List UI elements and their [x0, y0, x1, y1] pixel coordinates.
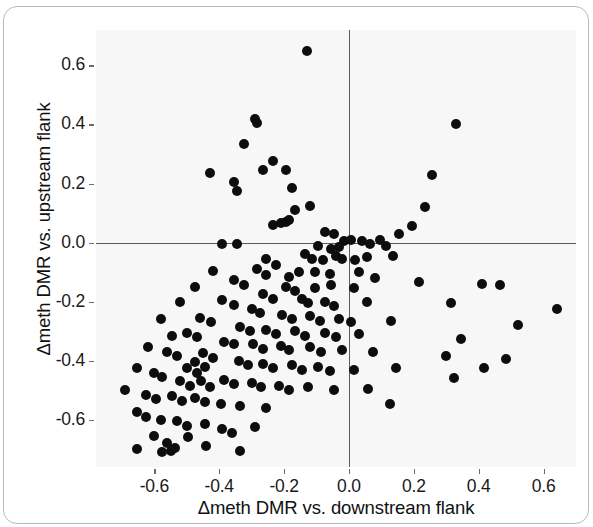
scatter-point [420, 202, 430, 212]
scatter-point [325, 366, 335, 376]
scatter-point [245, 326, 255, 336]
scatter-point [258, 359, 268, 369]
scatter-point [318, 255, 328, 265]
scatter-point [175, 297, 185, 307]
scatter-point [300, 331, 310, 341]
scatter-point [339, 236, 349, 246]
x-axis-tick-label: 0.6 [514, 476, 574, 497]
scatter-point [334, 314, 344, 324]
scatter-point [456, 334, 466, 344]
y-axis-tick [89, 124, 94, 125]
scatter-point [513, 320, 523, 330]
scatter-point [337, 254, 347, 264]
scatter-point [232, 239, 242, 249]
scatter-point [315, 316, 325, 326]
y-axis-tick [89, 184, 94, 185]
scatter-point [239, 280, 249, 290]
scatter-point [196, 376, 206, 386]
scatter-point [449, 373, 459, 383]
scatter-point [250, 422, 260, 432]
scatter-point [407, 221, 417, 231]
scatter-point [325, 269, 335, 279]
scatter-point [200, 419, 210, 429]
scatter-point [261, 270, 271, 280]
scatter-point [305, 201, 315, 211]
scatter-point [206, 317, 216, 327]
scatter-point [552, 304, 562, 314]
scatter-point [239, 139, 249, 149]
scatter-point [479, 363, 489, 373]
scatter-point [195, 313, 205, 323]
scatter-point [247, 378, 257, 388]
horizontal-zero-reference-line [96, 243, 576, 244]
x-axis-tick [219, 469, 220, 474]
scatter-point [141, 412, 151, 422]
scatter-point [310, 267, 320, 277]
scatter-point [320, 297, 330, 307]
scatter-point [141, 390, 151, 400]
scatter-point [276, 218, 286, 228]
scatter-point [190, 282, 200, 292]
scatter-point [305, 342, 315, 352]
scatter-point [290, 205, 300, 215]
plot-panel [96, 30, 576, 467]
scatter-point [357, 236, 367, 246]
scatter-point [192, 368, 202, 378]
scatter-point [229, 339, 239, 349]
scatter-point [365, 239, 375, 249]
scatter-point [201, 441, 211, 451]
x-axis-tick [154, 469, 155, 474]
scatter-point [132, 407, 142, 417]
scatter-plot-figure: -0.6-0.4-0.20.00.20.40.6 -0.6-0.4-0.20.0… [0, 0, 593, 527]
scatter-point [208, 353, 218, 363]
scatter-point [261, 325, 271, 335]
scatter-point [149, 368, 159, 378]
scatter-point [243, 360, 253, 370]
scatter-point [177, 396, 187, 406]
scatter-point [305, 311, 315, 321]
scatter-point [320, 328, 330, 338]
scatter-point [284, 215, 294, 225]
scatter-points-layer [96, 30, 576, 467]
scatter-point [149, 431, 159, 441]
y-axis-tick [89, 302, 94, 303]
scatter-point [307, 254, 317, 264]
scatter-point [172, 416, 182, 426]
scatter-point [229, 300, 239, 310]
scatter-point [219, 337, 229, 347]
scatter-point [303, 382, 313, 392]
scatter-point [151, 394, 161, 404]
scatter-point [252, 264, 262, 274]
scatter-point [354, 267, 364, 277]
x-axis-tick-label: -0.4 [189, 476, 249, 497]
scatter-point [247, 304, 257, 314]
scatter-point [256, 382, 266, 392]
scatter-point [250, 114, 260, 124]
scatter-point [290, 326, 300, 336]
scatter-point [294, 267, 304, 277]
scatter-point [271, 260, 281, 270]
scatter-point [261, 254, 271, 264]
scatter-point [200, 397, 210, 407]
scatter-point [200, 362, 210, 372]
scatter-point [166, 446, 176, 456]
y-axis-tick [89, 243, 94, 244]
scatter-point [386, 316, 396, 326]
scatter-point [198, 348, 208, 358]
scatter-point [337, 345, 347, 355]
scatter-point [217, 424, 227, 434]
scatter-point [268, 220, 278, 230]
x-axis-tick-label: 0.0 [319, 476, 379, 497]
scatter-point [363, 384, 373, 394]
scatter-point [120, 385, 130, 395]
scatter-point [362, 297, 372, 307]
scatter-point [261, 403, 271, 413]
scatter-point [232, 186, 242, 196]
x-axis-tick-label: -0.6 [124, 476, 184, 497]
scatter-point [501, 354, 511, 364]
scatter-point [132, 363, 142, 373]
scatter-point [302, 46, 312, 56]
scatter-point [388, 251, 398, 261]
scatter-point [182, 363, 192, 373]
scatter-point [281, 165, 291, 175]
